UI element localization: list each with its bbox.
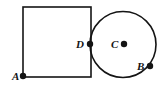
point-c-label: C <box>111 38 119 50</box>
point-b-label: B <box>136 60 144 72</box>
geometry-figure: A D C B <box>0 0 165 89</box>
point-d-marker <box>87 41 93 47</box>
point-d-label: D <box>75 38 84 50</box>
point-c-marker <box>121 41 127 47</box>
point-a-marker <box>20 73 26 79</box>
point-b-marker <box>147 63 153 69</box>
point-a-label: A <box>11 70 19 82</box>
geometry-diagram-svg: A D C B <box>0 0 165 89</box>
